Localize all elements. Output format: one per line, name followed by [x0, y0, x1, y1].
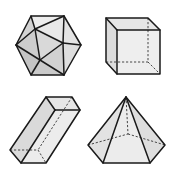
- pentagonal-pyramid: [88, 97, 165, 163]
- rectangular-prism: [10, 97, 80, 163]
- icosahedron: [16, 16, 81, 75]
- solids-diagram: [0, 0, 175, 170]
- cube: [106, 18, 160, 74]
